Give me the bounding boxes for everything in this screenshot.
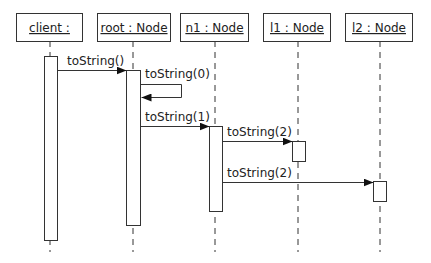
message-root-self: toString(0) <box>141 67 210 98</box>
message-label: toString() <box>67 54 124 68</box>
message-label: toString(2) <box>227 166 292 180</box>
activation-client <box>45 57 58 241</box>
message-n1-to-l1: toString(2) <box>223 125 293 142</box>
sequence-diagram: client : root : Node n1 : Node l1 : Node… <box>0 0 431 263</box>
message-label: toString(2) <box>227 125 292 139</box>
object-label-l1: l1 : Node <box>270 21 324 35</box>
object-client: client : <box>17 14 83 42</box>
message-label: toString(0) <box>145 67 210 81</box>
object-n1: n1 : Node <box>181 14 249 42</box>
message-client-to-root: toString() <box>58 54 127 71</box>
message-root-to-n1: toString(1) <box>141 110 210 127</box>
object-l1: l1 : Node <box>264 14 331 42</box>
object-l2: l2 : Node <box>346 14 413 42</box>
activation-root <box>127 71 141 226</box>
object-root: root : Node <box>98 14 171 42</box>
object-label-root: root : Node <box>100 21 167 35</box>
activation-l2 <box>374 182 387 202</box>
object-label-client: client : <box>29 21 70 35</box>
object-label-n1: n1 : Node <box>185 21 243 35</box>
message-label: toString(1) <box>145 110 210 124</box>
object-label-l2: l2 : Node <box>352 21 406 35</box>
activation-n1 <box>210 127 223 212</box>
activation-l1 <box>293 142 306 162</box>
